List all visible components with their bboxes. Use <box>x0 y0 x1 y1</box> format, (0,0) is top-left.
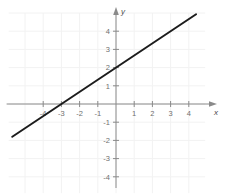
y-tick-label: 1 <box>106 82 110 91</box>
x-tick-label: 1 <box>132 109 136 118</box>
y-tick-label: -2 <box>103 136 110 145</box>
x-tick-label: 4 <box>187 109 191 118</box>
grid-lines <box>9 13 206 193</box>
y-tick-label: 3 <box>106 45 110 54</box>
y-tick-label: 4 <box>106 27 110 36</box>
x-tick-label: -1 <box>94 109 101 118</box>
y-axis-label: y <box>120 7 126 16</box>
x-tick-label: 2 <box>150 109 154 118</box>
y-tick-label: -3 <box>103 154 110 163</box>
x-tick-label: 3 <box>169 109 173 118</box>
x-tick-label: -3 <box>58 109 65 118</box>
axis-lines <box>7 7 217 188</box>
graph-canvas: -4-3-2-112344321-1-2-3-4 x y <box>0 0 227 194</box>
y-axis-arrowhead <box>113 7 119 15</box>
x-axis-label: x <box>213 108 219 117</box>
x-tick-label: -2 <box>76 109 83 118</box>
y-tick-label: -1 <box>103 118 110 127</box>
y-tick-label: -4 <box>103 173 110 182</box>
coordinate-plane-graph: -4-3-2-112344321-1-2-3-4 x y <box>0 0 227 194</box>
x-axis-arrowhead <box>209 101 217 107</box>
